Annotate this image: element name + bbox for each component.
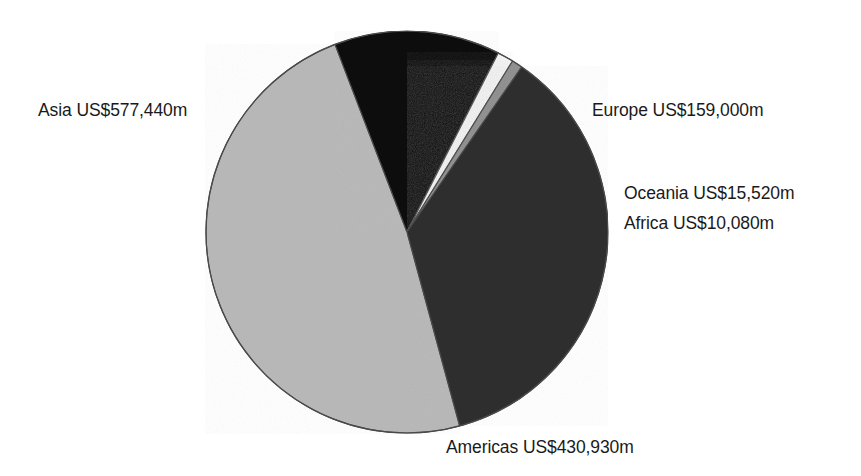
pie-label-oceania: Oceania US$15,520m: [624, 183, 794, 204]
pie-label-africa: Africa US$10,080m: [624, 213, 774, 234]
pie-chart: [0, 0, 861, 476]
pie-label-asia: Asia US$577,440m: [38, 100, 187, 121]
pie-label-europe: Europe US$159,000m: [592, 100, 763, 121]
pie-chart-page: Asia US$577,440m Europe US$159,000m Ocea…: [0, 0, 861, 476]
pie-label-americas: Americas US$430,930m: [446, 437, 634, 458]
pie-slice-group: [206, 31, 608, 433]
